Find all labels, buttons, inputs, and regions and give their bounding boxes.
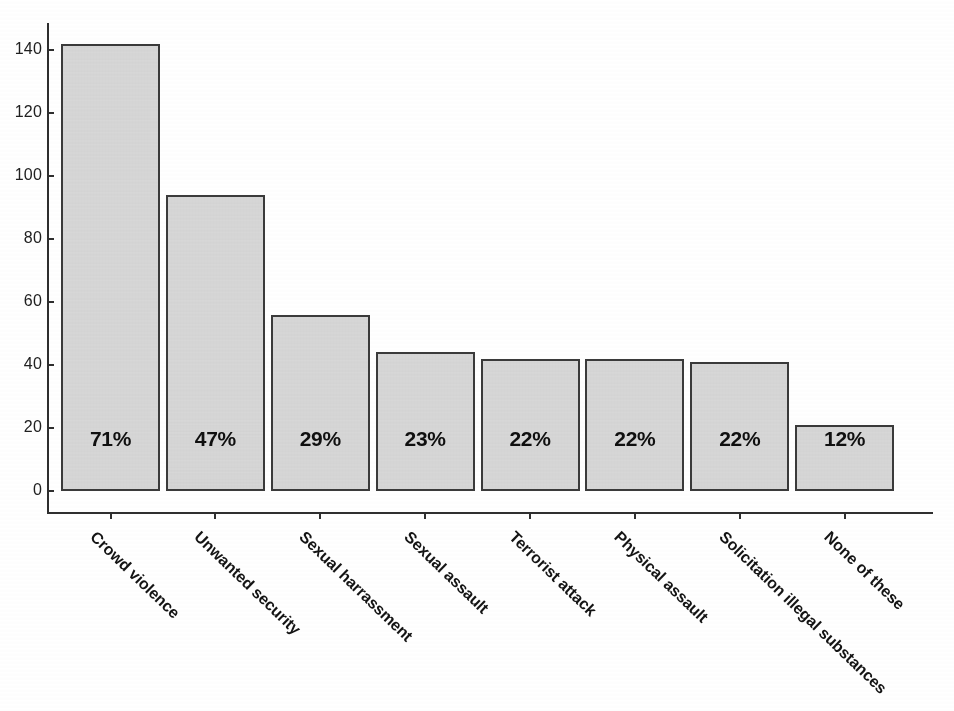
y-axis-tick-label: 140 [2,40,42,58]
bar: 23% [376,352,475,491]
bar: 71% [61,44,160,491]
bar-value-label: 22% [483,427,578,451]
x-axis-category-label: Physical assault [610,528,711,626]
bar-chart: 020406080100120140 71%47%29%23%22%22%22%… [0,0,954,711]
x-axis-tick [844,512,846,519]
bar-value-label: 23% [378,427,473,451]
bar-value-label: 47% [168,427,263,451]
y-axis-tick [47,364,54,366]
x-axis-tick [424,512,426,519]
bar-value-label: 12% [797,427,892,451]
y-axis-tick [47,112,54,114]
bar: 22% [585,359,684,491]
y-axis-tick-label-wrap: 100 [0,166,42,184]
y-axis-tick-label: 40 [2,355,42,373]
x-axis-category-label: None of these [820,528,908,614]
x-axis-tick [739,512,741,519]
y-axis-tick-label-wrap: 140 [0,40,42,58]
y-axis-tick [47,175,54,177]
y-axis-tick [47,301,54,303]
y-axis-tick-label: 120 [2,103,42,121]
y-axis-tick [47,49,54,51]
x-axis-category-label: Unwanted security [191,528,305,639]
y-axis-tick-label-wrap: 60 [0,292,42,310]
y-axis-tick-label-wrap: 40 [0,355,42,373]
bar-value-label: 22% [587,427,682,451]
x-axis-category-label: Sexual assault [401,528,492,617]
y-axis-tick-label-wrap: 20 [0,418,42,436]
x-axis-category-label: Sexual harrassment [296,528,417,645]
x-axis-tick [110,512,112,519]
x-axis-tick [529,512,531,519]
bar-value-label: 71% [63,427,158,451]
y-axis-tick-label-wrap: 80 [0,229,42,247]
y-axis-tick-label: 80 [2,229,42,247]
y-axis-line [47,23,49,514]
y-axis-tick [47,490,54,492]
plot-area: 020406080100120140 71%47%29%23%22%22%22%… [0,0,954,711]
x-axis-category-label: Solicitation illegal substances [715,528,890,698]
bar: 29% [271,315,370,491]
y-axis-tick [47,238,54,240]
x-axis-category-label: Crowd violence [86,528,183,622]
bar: 22% [690,362,789,491]
y-axis-tick-label: 60 [2,292,42,310]
x-axis-tick [319,512,321,519]
bar-value-label: 22% [692,427,787,451]
y-axis-tick-label-wrap: 0 [0,481,42,499]
bar: 22% [481,359,580,491]
y-axis-tick-label: 20 [2,418,42,436]
y-axis-tick-label-wrap: 120 [0,103,42,121]
bar-value-label: 29% [273,427,368,451]
x-axis-category-label: Terrorist attack [505,528,599,620]
y-axis-tick-label: 100 [2,166,42,184]
x-axis-tick [634,512,636,519]
y-axis-tick [47,427,54,429]
bar: 12% [795,425,894,491]
x-axis-line [47,512,933,514]
y-axis-tick-label: 0 [2,481,42,499]
x-axis-tick [214,512,216,519]
bar: 47% [166,195,265,491]
